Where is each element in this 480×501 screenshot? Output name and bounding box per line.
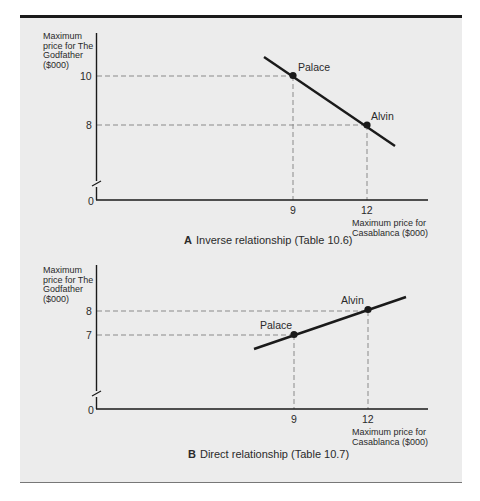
point-b-alvin: [364, 306, 371, 313]
point-label-b-alvin: Alvin: [341, 295, 364, 305]
y-tick-b-8: 8: [86, 306, 92, 316]
x-tick-b-12: 12: [362, 414, 374, 424]
y-tick-b-7: 7: [86, 330, 92, 340]
point-b-palace: [290, 331, 297, 338]
caption-a-letter: A: [184, 234, 192, 246]
y-axis-label-b: Maximum price for The Godfather ($000): [43, 266, 93, 304]
y-tick-a-10: 10: [80, 71, 92, 81]
x-tick-b-9: 9: [291, 414, 297, 424]
origin-a: 0: [88, 196, 94, 206]
caption-b-text: Direct relationship (Table 10.7): [200, 448, 349, 460]
x-tick-a-9: 9: [290, 205, 296, 215]
caption-a-text: Inverse relationship (Table 10.6): [196, 234, 353, 246]
caption-a: AInverse relationship (Table 10.6): [184, 235, 352, 245]
point-a-alvin: [363, 121, 370, 128]
x-axis-label-a: Maximum price for Casablanca ($000): [352, 218, 428, 238]
point-label-b-palace: Palace: [260, 320, 292, 330]
point-label-a-palace: Palace: [298, 62, 330, 72]
point-label-a-alvin: Alvin: [371, 111, 394, 121]
chart-b: [92, 265, 428, 409]
point-a-palace: [289, 72, 296, 79]
y-tick-a-8: 8: [86, 120, 92, 130]
x-tick-a-12: 12: [361, 205, 373, 215]
origin-b: 0: [88, 405, 94, 415]
x-axis-label-b: Maximum price for Casablanca ($000): [352, 427, 428, 447]
axis-break-b-icon: [92, 391, 101, 396]
axis-break-a-icon: [92, 181, 101, 186]
charts-svg: [0, 0, 480, 501]
y-axis-label-a: Maximum price for The Godfather ($000): [43, 32, 93, 70]
caption-b-letter: B: [188, 448, 196, 460]
caption-b: BDirect relationship (Table 10.7): [188, 449, 349, 459]
